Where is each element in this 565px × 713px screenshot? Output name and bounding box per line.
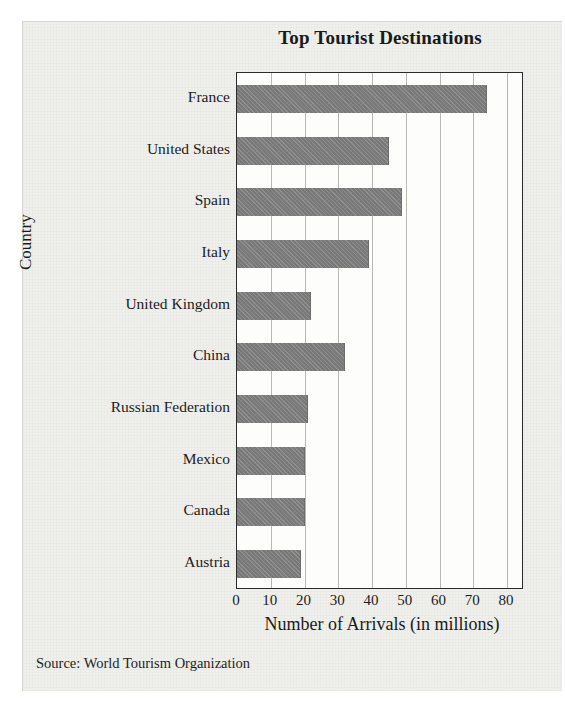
source-note: Source: World Tourism Organization bbox=[36, 655, 250, 672]
bar bbox=[237, 395, 308, 423]
bar bbox=[237, 447, 305, 475]
x-axis-tick-label: 80 bbox=[499, 592, 514, 609]
y-axis-tick-label: Canada bbox=[20, 501, 230, 519]
x-axis-tick-labels: 01020304050607080 bbox=[236, 592, 523, 614]
bar bbox=[237, 550, 301, 578]
plot-area bbox=[236, 72, 523, 589]
y-axis-tick-label: Mexico bbox=[20, 450, 230, 468]
x-axis-tick-label: 10 bbox=[262, 592, 277, 609]
x-axis-tick-label: 40 bbox=[364, 592, 379, 609]
x-axis-tick-label: 0 bbox=[232, 592, 240, 609]
bar bbox=[237, 498, 305, 526]
chart-title: Top Tourist Destinations bbox=[236, 27, 524, 49]
y-axis-tick-label: France bbox=[20, 88, 230, 106]
x-axis-tick-label: 70 bbox=[465, 592, 480, 609]
y-axis-tick-labels: FranceUnited StatesSpainItalyUnited King… bbox=[22, 72, 230, 589]
y-axis-tick-label: Italy bbox=[20, 243, 230, 261]
y-axis-tick-label: United States bbox=[20, 140, 230, 158]
x-axis-tick-label: 60 bbox=[431, 592, 446, 609]
x-axis-tick-label: 50 bbox=[397, 592, 412, 609]
y-axis-tick-label: Russian Federation bbox=[20, 398, 230, 416]
bar bbox=[237, 188, 402, 216]
y-axis-tick-label: United Kingdom bbox=[20, 295, 230, 313]
bar bbox=[237, 292, 311, 320]
bar bbox=[237, 343, 345, 371]
scanned-page: Top Tourist Destinations Country FranceU… bbox=[0, 0, 565, 713]
x-axis-tick-label: 20 bbox=[296, 592, 311, 609]
y-axis-tick-label: Austria bbox=[20, 553, 230, 571]
bar-series bbox=[237, 73, 522, 588]
y-axis-tick-label: China bbox=[20, 346, 230, 364]
bar bbox=[237, 137, 389, 165]
x-axis-tick-label: 30 bbox=[330, 592, 345, 609]
x-axis-title: Number of Arrivals (in millions) bbox=[232, 614, 532, 635]
y-axis-tick-label: Spain bbox=[20, 191, 230, 209]
bar bbox=[237, 85, 487, 113]
bar bbox=[237, 240, 369, 268]
